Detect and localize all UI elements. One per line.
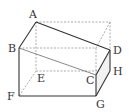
label-F: F bbox=[7, 90, 15, 103]
label-B: B bbox=[8, 42, 16, 55]
label-E: E bbox=[37, 72, 45, 85]
edge-A-D bbox=[36, 22, 110, 50]
edge-E-F bbox=[19, 71, 36, 96]
face-CDHG bbox=[96, 50, 110, 96]
label-A: A bbox=[28, 8, 38, 21]
label-G: G bbox=[96, 98, 105, 111]
edge-A-B bbox=[19, 22, 36, 48]
label-C: C bbox=[86, 74, 94, 87]
edge-P-Q bbox=[96, 22, 110, 48]
prism-diagram: A B D H C E F G bbox=[0, 0, 135, 112]
label-D: D bbox=[113, 44, 122, 57]
label-H: H bbox=[113, 65, 123, 78]
